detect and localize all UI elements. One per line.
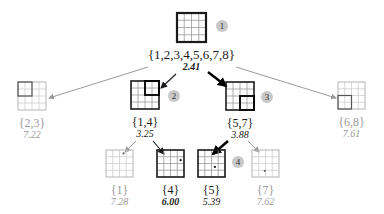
edge-arrow-root-to-n14 (161, 74, 176, 88)
edge-arrow-n14-to-n4 (153, 141, 164, 154)
node-score-label: 7.61 (343, 129, 361, 139)
node-score-label: 7.62 (257, 197, 275, 207)
node-score-label: 7.22 (23, 130, 41, 140)
point-marker (122, 152, 124, 154)
node-set-label: {1,2,3,4,5,6,7,8} (148, 48, 235, 61)
node-set-label: {6,8} (338, 116, 365, 128)
search-tree-diagram (0, 0, 384, 214)
node-set-label: {1,4} (132, 116, 159, 128)
node-score-label: 3.25 (136, 129, 154, 139)
edge-arrow-root-to-n23 (49, 67, 148, 98)
step-number-badge: 2 (168, 90, 180, 102)
node-grid-n5 (198, 150, 225, 177)
edge-arrow-root-to-n57 (208, 72, 226, 86)
node-grid-n23 (18, 82, 46, 110)
node-grid-n14 (131, 81, 159, 109)
node-set-label: {5,7} (227, 117, 254, 129)
node-set-label: {4} (162, 184, 180, 196)
node-grid-n57 (226, 82, 254, 110)
node-score-label: 3.88 (231, 130, 249, 140)
step-number-badge: 3 (261, 91, 273, 103)
tree-edges (49, 67, 336, 154)
node-score-label: 5.39 (203, 197, 221, 207)
node-set-label: {2,3} (19, 117, 46, 129)
node-score-label: 2.41 (183, 62, 201, 72)
node-score-label: 6.00 (162, 197, 180, 207)
node-set-label: {5} (203, 184, 221, 196)
node-grid-n1 (106, 150, 133, 177)
node-grid-root (177, 13, 206, 42)
node-grid-n68 (338, 82, 365, 109)
point-marker (180, 159, 182, 161)
node-score-label: 7.28 (111, 197, 129, 207)
point-marker (214, 166, 216, 168)
node-grid-n7 (252, 150, 279, 177)
node-grid-n4 (157, 150, 184, 177)
point-marker (264, 170, 266, 172)
step-number-badge: 1 (216, 20, 228, 32)
step-number-badge: 4 (232, 156, 244, 168)
node-set-label: {7} (257, 184, 275, 196)
tree-node-grids (18, 13, 365, 177)
node-set-label: {1} (111, 184, 129, 196)
